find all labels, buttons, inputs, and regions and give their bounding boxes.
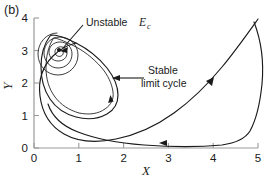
unstable-label-subscript: c bbox=[147, 22, 151, 31]
y-tick-label-1: 1 bbox=[22, 110, 28, 122]
unstable-label-symbol: E bbox=[138, 16, 146, 28]
limit-cycle-leader-arrowhead bbox=[112, 75, 120, 81]
stable-label-line1: Stable bbox=[148, 64, 178, 76]
annotation-stable-limit-cycle: Stable limit cycle bbox=[112, 64, 187, 89]
y-axis-title: Y bbox=[0, 81, 15, 90]
x-tick-label-4: 4 bbox=[210, 152, 217, 164]
y-tick-label-0: 0 bbox=[22, 142, 28, 154]
phase-portrait-svg: 0 1 2 3 4 0 1 2 3 4 5 X Y (b) bbox=[0, 0, 271, 177]
y-tick-label-4: 4 bbox=[22, 12, 29, 24]
inner-unstable-spiral bbox=[38, 33, 78, 75]
y-tick-label-2: 2 bbox=[22, 77, 28, 89]
annotation-unstable-equilibrium: Unstable E c bbox=[60, 16, 151, 53]
x-tick-label-5: 5 bbox=[255, 152, 261, 164]
y-tick-labels: 0 1 2 3 4 bbox=[22, 12, 29, 154]
phase-portrait-figure: 0 1 2 3 4 0 1 2 3 4 5 X Y (b) bbox=[0, 0, 271, 177]
y-tick-label-3: 3 bbox=[22, 45, 28, 57]
x-tick-label-3: 3 bbox=[165, 152, 171, 164]
unstable-label-text: Unstable bbox=[86, 16, 128, 28]
stable-label-line2: limit cycle bbox=[141, 77, 187, 89]
x-tick-label-1: 1 bbox=[76, 152, 82, 164]
x-tick-label-0: 0 bbox=[31, 152, 37, 164]
panel-label: (b) bbox=[4, 3, 19, 17]
x-axis-title: X bbox=[141, 163, 151, 177]
y-tick-marks bbox=[34, 18, 39, 148]
unstable-fixed-point-marker bbox=[57, 48, 61, 52]
x-tick-label-2: 2 bbox=[120, 152, 126, 164]
outer-trajectory-flow-arrow bbox=[159, 140, 167, 146]
stable-limit-cycle bbox=[41, 35, 118, 119]
upper-right-flow-arrow bbox=[206, 77, 214, 86]
